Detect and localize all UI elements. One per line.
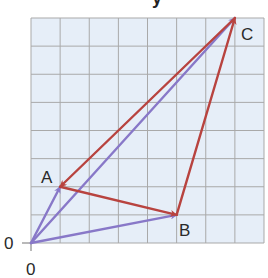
point-label-b: B — [179, 221, 190, 240]
origin-label-x-axis: 0 — [26, 260, 35, 278]
point-label-c: C — [241, 25, 253, 44]
origin-label-y-axis: 0 — [4, 234, 13, 253]
point-label-a: A — [41, 168, 53, 187]
vector-diagram: y A B C 0 0 — [0, 0, 268, 278]
grid — [31, 18, 264, 243]
title-fragment: y — [152, 0, 162, 8]
